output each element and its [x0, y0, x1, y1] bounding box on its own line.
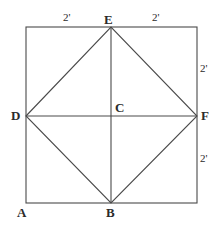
measure-label-top-left: 2': [63, 12, 70, 23]
vertex-label-e: E: [104, 13, 113, 26]
geometry-figure: E D F B C A 2' 2' 2' 2': [0, 0, 219, 225]
measure-label-right-lower: 2': [200, 153, 207, 164]
vertex-label-f: F: [201, 109, 209, 122]
geometry-canvas: [0, 0, 219, 225]
measure-label-right-upper: 2': [200, 63, 207, 74]
vertex-label-d: D: [11, 109, 20, 122]
vertex-label-b: B: [106, 206, 115, 219]
vertex-label-a: A: [17, 206, 26, 219]
vertex-label-c: C: [115, 101, 124, 114]
measure-label-top-right: 2': [152, 12, 159, 23]
